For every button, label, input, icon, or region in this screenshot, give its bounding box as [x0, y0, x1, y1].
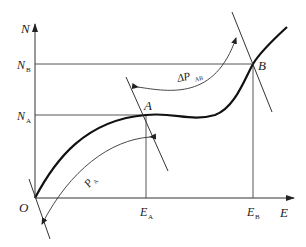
svg-text:B: B	[26, 66, 31, 74]
main-curve	[35, 27, 287, 198]
svg-text:E: E	[246, 205, 255, 219]
tick-eb: E B	[246, 205, 260, 221]
y-axis-label: N	[20, 21, 31, 36]
svg-text:A: A	[26, 117, 31, 125]
svg-text:A: A	[148, 213, 153, 221]
svg-text:AB: AB	[194, 75, 203, 83]
pa-label: P A	[81, 172, 100, 191]
svg-text:B: B	[255, 213, 260, 221]
x-axis-label: E	[279, 205, 288, 220]
delta-pab-label: ΔP AB	[175, 67, 204, 86]
point-b-label: B	[258, 58, 266, 73]
diagram-svg: N E O N B N A E A E B A B P A ΔP	[0, 0, 306, 247]
tick-ea: E A	[139, 205, 153, 221]
svg-text:N: N	[16, 109, 26, 123]
point-a-label: A	[143, 98, 152, 113]
svg-text:ΔP: ΔP	[175, 69, 192, 84]
tangent-at-b	[232, 12, 272, 112]
origin-label: O	[19, 200, 29, 215]
tick-na: N A	[16, 109, 31, 125]
svg-text:E: E	[139, 205, 148, 219]
tick-nb: N B	[16, 58, 31, 74]
svg-text:N: N	[16, 58, 26, 72]
tangent-at-a	[126, 77, 168, 171]
diagram-canvas: N E O N B N A E A E B A B P A ΔP	[0, 0, 306, 247]
